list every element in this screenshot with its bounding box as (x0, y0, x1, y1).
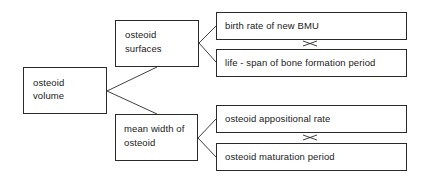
node-birth-rate-label: birth rate of new BMU (225, 20, 319, 32)
node-osteoid-surfaces-line1: osteoid (125, 29, 156, 41)
node-osteoid-volume-line1: osteoid (33, 77, 64, 89)
node-maturation-period-label: osteoid maturation period (225, 151, 335, 163)
connector-root-to-surfaces (107, 67, 157, 91)
node-lifespan-label: life - span of bone formation period (225, 57, 375, 69)
connector-width-to-appositional (198, 119, 216, 138)
connector-surfaces-to-birth-rate (199, 26, 216, 43)
multiply-icon-top (303, 41, 317, 46)
node-osteoid-surfaces-line2: surfaces (125, 43, 162, 55)
connector-width-to-maturation (198, 138, 216, 157)
node-osteoid-volume-line2: volume (33, 90, 64, 102)
node-appositional-rate-label: osteoid appositional rate (225, 113, 331, 125)
node-mean-width-line2: osteoid (124, 137, 155, 149)
connector-surfaces-to-lifespan (199, 43, 216, 62)
connector-root-to-width (107, 91, 157, 114)
node-mean-width-line1: mean width of (124, 123, 184, 135)
multiply-icon-bottom (303, 135, 317, 140)
